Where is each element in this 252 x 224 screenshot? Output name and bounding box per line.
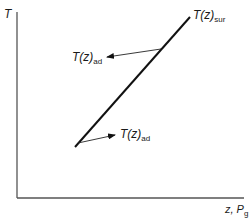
x-axis-label-subscript: g [244,209,248,218]
label-t-ad-lower: T(z)ad [120,128,150,143]
y-axis-label: T [4,8,11,20]
label-t-ad-lower-text: T(z) [120,127,141,141]
label-t-ad-upper-text: T(z) [72,50,93,64]
x-axis-label: z, Pg [225,204,248,218]
x-axis-label-text: z, P [225,203,244,215]
label-t-sur-subscript: sur [214,15,225,24]
label-t-ad-upper: T(z)ad [72,51,102,66]
label-t-ad-lower-subscript: ad [141,134,150,143]
label-t-ad-upper-subscript: ad [93,57,102,66]
diagram-canvas [0,0,252,224]
label-t-sur: T(z)sur [193,9,225,24]
label-t-sur-text: T(z) [193,8,214,22]
arrow-upper-ad [107,49,161,57]
y-axis-label-text: T [4,7,11,21]
